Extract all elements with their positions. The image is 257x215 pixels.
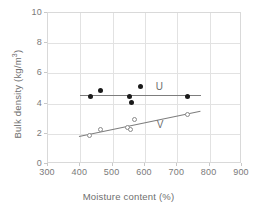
y-axis-tick	[44, 42, 47, 43]
y-axis-tick-label: 10	[20, 7, 42, 17]
series-label-v: V	[157, 119, 164, 130]
x-axis-tick-label: 700	[169, 167, 185, 177]
y-axis-tick	[44, 163, 47, 164]
x-axis-tick	[209, 163, 210, 166]
data-point-v	[185, 112, 190, 117]
y-axis-tick	[44, 12, 47, 13]
y-axis-tick-label: 8	[20, 37, 42, 47]
x-axis-tick	[79, 163, 80, 166]
y-axis-tick-label: 2	[20, 128, 42, 138]
gridline-vertical	[177, 13, 178, 162]
x-axis-tick-label: 800	[201, 167, 217, 177]
y-axis-tick-label: 4	[20, 98, 42, 108]
data-point-v	[128, 127, 133, 132]
data-point-u	[185, 94, 190, 99]
x-axis-tick-label: 900	[233, 167, 249, 177]
x-axis-tick	[112, 163, 113, 166]
gridline-horizontal	[48, 104, 240, 105]
data-point-u	[127, 94, 132, 99]
y-axis-tick-label: 0	[20, 158, 42, 168]
x-axis-tick-label: 600	[136, 167, 152, 177]
gridline-vertical	[80, 13, 81, 162]
gridline-vertical	[145, 13, 146, 162]
data-point-v	[87, 133, 92, 138]
gridline-horizontal	[48, 134, 240, 135]
data-point-u	[129, 100, 134, 105]
y-axis-tick	[44, 72, 47, 73]
x-axis-tick	[47, 163, 48, 166]
x-axis-tick	[176, 163, 177, 166]
chart-figure: UV Bulk density (kg/m3) Moisture content…	[0, 0, 257, 215]
y-axis-title-tail: )	[12, 50, 23, 53]
data-point-u	[98, 88, 103, 93]
plot-area: UV	[47, 12, 241, 163]
y-axis-tick	[44, 133, 47, 134]
y-axis-tick	[44, 103, 47, 104]
data-point-v	[132, 117, 137, 122]
data-point-u	[88, 94, 93, 99]
data-point-u	[138, 84, 143, 89]
x-axis-tick	[241, 163, 242, 166]
x-axis-tick	[144, 163, 145, 166]
gridline-vertical	[113, 13, 114, 162]
x-axis-tick-label: 500	[104, 167, 120, 177]
y-axis-title-exponent: 3	[11, 53, 18, 57]
series-label-u: U	[156, 81, 163, 92]
x-axis-tick-label: 300	[39, 167, 55, 177]
x-axis-title: Moisture content (%)	[0, 191, 257, 202]
x-axis-tick-label: 400	[72, 167, 88, 177]
gridline-horizontal	[48, 73, 240, 74]
gridline-vertical	[210, 13, 211, 162]
gridline-horizontal	[48, 43, 240, 44]
trendline-u	[80, 95, 201, 96]
y-axis-tick-label: 6	[20, 67, 42, 77]
